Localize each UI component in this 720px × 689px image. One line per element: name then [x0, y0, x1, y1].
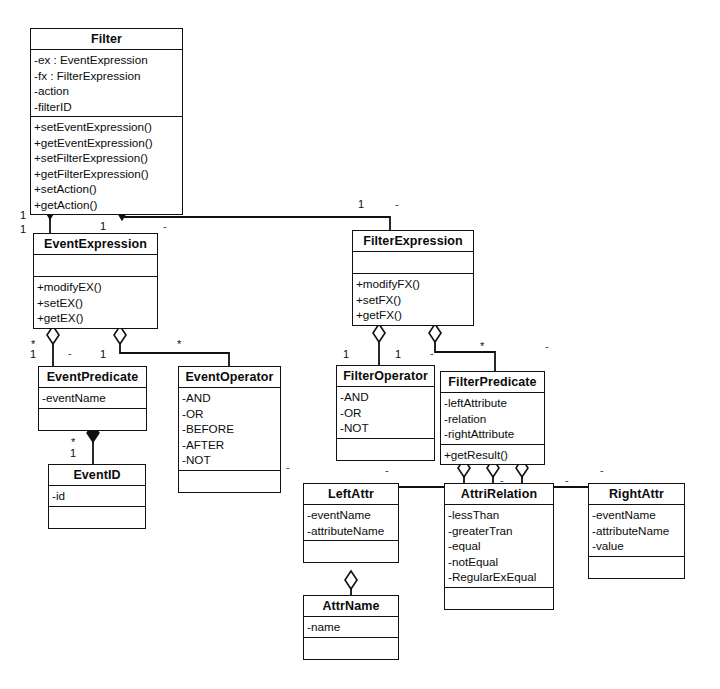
tick-mark-tick-attrirelation-top: - [500, 474, 504, 486]
uml-class-right-attr[interactable]: RightAttr-eventName-attributeName-value [588, 483, 685, 579]
uml-class-event-id[interactable]: EventID-id [48, 464, 146, 529]
uml-attribute: -AFTER [182, 437, 279, 453]
multiplicity-label-m-filterexpr-pred: 1 [395, 348, 401, 360]
uml-class-event-predicate[interactable]: EventPredicate-eventName [38, 366, 147, 431]
uml-operation: +setAction() [34, 181, 181, 197]
multiplicity-label-m-filterexpr-op: 1 [343, 348, 349, 360]
tick-mark-tick-eventexpr-mid: - [68, 347, 72, 359]
uml-class-attr-name[interactable]: AttrName-name [303, 595, 399, 660]
uml-attributes-right-attr: -eventName-attributeName-value [589, 505, 684, 557]
uml-attributes-filter-operator: -AND-OR-NOT [337, 387, 434, 439]
edge-eventexpression-eventpredicate [47, 326, 59, 366]
uml-attribute: -OR [182, 406, 279, 422]
tick-mark-tick-filter-fx-right: - [395, 198, 399, 210]
tick-mark-tick-eventoperator-bottom: - [286, 461, 290, 473]
uml-class-name-left-attr: LeftAttr [304, 484, 398, 505]
uml-class-name-filter-predicate: FilterPredicate [441, 372, 544, 393]
uml-attribute: -relation [444, 411, 543, 427]
uml-operations-left-attr [304, 541, 398, 562]
uml-attribute: -notEqual [448, 554, 552, 570]
uml-operation: +getEX() [37, 310, 156, 326]
uml-operations-event-predicate [39, 409, 146, 430]
uml-class-name-attr-name: AttrName [304, 596, 398, 617]
multiplicity-label-m-eventexpr-op: 1 [100, 348, 106, 360]
uml-operation: +setEventExpression() [34, 119, 181, 135]
uml-class-name-attri-relation: AttriRelation [445, 484, 553, 505]
uml-operations-filter-expression: +modifyFX()+setFX()+getFX() [353, 274, 473, 325]
uml-attributes-attri-relation: -lessThan-greaterTran-equal-notEqual-Reg… [445, 505, 553, 588]
uml-class-name-event-predicate: EventPredicate [39, 367, 146, 388]
uml-class-name-event-operator: EventOperator [179, 367, 280, 388]
tick-mark-tick-filterexpr-mid: - [430, 347, 434, 359]
uml-operation: +setFX() [356, 292, 472, 308]
uml-operation: +getEventExpression() [34, 135, 181, 151]
uml-class-name-event-expression: EventExpression [34, 234, 157, 255]
uml-operations-event-expression: +modifyEX()+setEX()+getEX() [34, 277, 157, 328]
uml-class-filter-expression[interactable]: FilterExpression+modifyFX()+setFX()+getF… [352, 230, 474, 326]
uml-attributes-event-expression [34, 255, 157, 277]
uml-attribute: -fx : FilterExpression [34, 68, 181, 84]
multiplicity-label-m-eventexpr-op-star: * [177, 338, 181, 350]
uml-class-name-filter: Filter [31, 29, 182, 50]
uml-operations-filter-operator [337, 439, 434, 460]
uml-attribute: -RegularExEqual [448, 569, 552, 585]
uml-operations-filter: +setEventExpression()+getEventExpression… [31, 117, 182, 214]
edge-leftattr-attrname [345, 571, 357, 595]
uml-attribute: -rightAttribute [444, 426, 543, 442]
uml-attribute: -equal [448, 538, 552, 554]
uml-attribute: -eventName [592, 507, 683, 523]
uml-operation: +getFX() [356, 307, 472, 323]
uml-operation: +modifyEX() [37, 279, 156, 295]
edge-filterexpression-filterpredicate [429, 324, 495, 371]
uml-class-diagram: Filter-ex : EventExpression-fx : FilterE… [0, 0, 720, 689]
uml-class-filter-operator[interactable]: FilterOperator-AND-OR-NOT [336, 365, 435, 461]
uml-operations-attr-name [304, 638, 398, 659]
uml-attribute: -eventName [307, 507, 397, 523]
multiplicity-label-m-filterexpr-pred-star: * [480, 340, 484, 352]
uml-attributes-filter-predicate: -leftAttribute-relation-rightAttribute [441, 393, 544, 445]
uml-operation: +setEX() [37, 295, 156, 311]
uml-operations-filter-predicate: +getResult() [441, 445, 544, 465]
tick-mark-tick-filterpred-left: - [385, 464, 389, 476]
uml-attributes-event-predicate: -eventName [39, 388, 146, 409]
uml-operation: +modifyFX() [356, 276, 472, 292]
uml-class-left-attr[interactable]: LeftAttr-eventName-attributeName [303, 483, 399, 563]
uml-attribute: -action [34, 83, 181, 99]
edge-filterexpression-filteroperator [373, 324, 385, 365]
tick-mark-tick-rightattr-top: - [565, 474, 569, 486]
uml-attribute: -id [52, 488, 144, 504]
uml-attributes-left-attr: -eventName-attributeName [304, 505, 398, 541]
uml-attribute: -ex : EventExpression [34, 52, 181, 68]
uml-attribute: -NOT [340, 420, 433, 436]
multiplicity-label-m-filter-ex-top: 1 [20, 209, 26, 221]
uml-class-attri-relation[interactable]: AttriRelation-lessThan-greaterTran-equal… [444, 483, 554, 610]
uml-class-event-operator[interactable]: EventOperator-AND-OR-BEFORE-AFTER-NOT [178, 366, 281, 493]
uml-operations-event-id [49, 507, 145, 528]
multiplicity-label-m-filter-ex-bottom: 1 [20, 223, 26, 235]
uml-attributes-event-operator: -AND-OR-BEFORE-AFTER-NOT [179, 388, 280, 471]
uml-attribute: -greaterTran [448, 523, 552, 539]
uml-operation: +getFilterExpression() [34, 166, 181, 182]
uml-operations-event-operator [179, 471, 280, 492]
uml-attribute: -attributeName [307, 523, 397, 539]
uml-attributes-event-id: -id [49, 486, 145, 507]
uml-attributes-filter: -ex : EventExpression-fx : FilterExpress… [31, 50, 182, 117]
uml-attribute: -lessThan [448, 507, 552, 523]
multiplicity-label-m-eventexpression-top: 1 [100, 220, 106, 232]
uml-attributes-filter-expression [353, 252, 473, 274]
uml-attribute: -name [307, 619, 397, 635]
uml-attributes-attr-name: -name [304, 617, 398, 638]
uml-attribute: -attributeName [592, 523, 683, 539]
multiplicity-label-m-filter-fx: 1 [358, 198, 364, 210]
uml-class-event-expression[interactable]: EventExpression+modifyEX()+setEX()+getEX… [33, 233, 158, 329]
uml-operations-attri-relation [445, 588, 553, 609]
uml-operation: +getAction() [34, 197, 181, 213]
tick-mark-tick-eventexpr-right: - [163, 220, 167, 232]
uml-class-filter[interactable]: Filter-ex : EventExpression-fx : FilterE… [30, 28, 183, 215]
uml-attribute: -filterID [34, 99, 181, 115]
uml-operations-right-attr [589, 557, 684, 578]
uml-class-filter-predicate[interactable]: FilterPredicate-leftAttribute-relation-r… [440, 371, 545, 465]
multiplicity-label-m-eventexpr-pred-star: * [31, 338, 35, 350]
tick-mark-tick-filterpred-right: - [600, 464, 604, 476]
edge-eventexpression-eventoperator [114, 326, 229, 366]
